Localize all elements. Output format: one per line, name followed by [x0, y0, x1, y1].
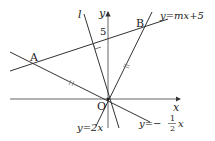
svg-text:x: x — [178, 118, 184, 129]
svg-text:2: 2 — [170, 124, 175, 133]
point-a-label: A — [29, 51, 39, 64]
line-2x-label: y=2x — [76, 122, 103, 133]
origin-point — [107, 98, 110, 101]
y-intercept-label: 5 — [100, 26, 106, 37]
line-mx5-label: y=mx+5 — [159, 10, 204, 21]
svg-text:1: 1 — [170, 114, 175, 123]
x-axis-label: x — [173, 101, 180, 114]
line-neg-half-label: y=− 1 2 x — [138, 114, 184, 133]
equal-tick-ob — [123, 64, 130, 68]
point-b-label: B — [136, 17, 144, 30]
y-axis-label: y — [98, 7, 106, 20]
line-l-label: l — [78, 8, 82, 21]
svg-text:y=−: y=− — [138, 118, 161, 129]
origin-label: O — [97, 100, 106, 113]
coordinate-diagram: y x O 5 l A B y=mx+5 y=2x y=− 1 2 x — [0, 0, 215, 141]
